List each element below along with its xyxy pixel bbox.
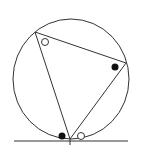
inscribed-triangle	[35, 32, 126, 139]
circle-theorem-diagram	[0, 0, 141, 154]
filled-angle-marker-bottom-left	[59, 133, 66, 140]
open-angle-marker-top	[42, 39, 49, 46]
circle	[13, 19, 129, 139]
open-angle-marker-bottom-right	[78, 133, 85, 140]
filled-angle-marker-right	[112, 64, 119, 71]
